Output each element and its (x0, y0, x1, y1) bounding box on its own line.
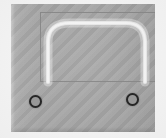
screenshot-root (0, 0, 166, 138)
screw-hole-left (29, 95, 42, 108)
screw-hole-right (126, 93, 139, 106)
recessed-window-outline (40, 12, 155, 82)
faceplate-panel (11, 4, 155, 132)
panel-left-highlight (11, 4, 15, 132)
panel-bottom-shadow (11, 127, 155, 132)
